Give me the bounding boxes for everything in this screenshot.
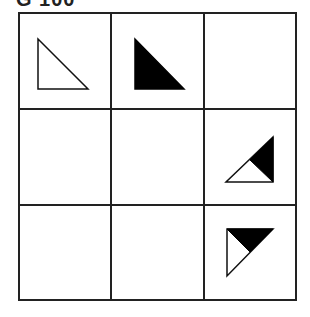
cell-0-1-filled-triangle-icon (135, 39, 184, 89)
cell-1-2-half-filled-triangle-icon (226, 137, 273, 182)
puzzle-grid (18, 12, 297, 301)
grid-svg (18, 12, 297, 301)
cell-2-2-half-filled-triangle-icon (227, 229, 273, 276)
cell-0-0-outline-triangle-icon (38, 39, 88, 89)
puzzle-title: G 100 (16, 0, 75, 11)
